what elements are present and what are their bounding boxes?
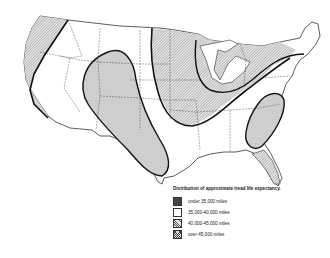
legend-label: over 45,000 miles [188, 232, 224, 238]
crosshatch-pattern-swatch-icon [173, 230, 182, 239]
legend-label: 40,000-45,000 miles [188, 221, 230, 227]
dots-pattern-swatch-icon [173, 197, 182, 206]
legend-item-under-35000: under 35,000 miles [173, 197, 283, 207]
tread-life-map: Distribution of approximate tread life e… [0, 0, 330, 258]
legend-item-over-45000: over 45,000 miles [173, 230, 283, 240]
legend-item-40000-45000: 40,000-45,000 miles [173, 219, 283, 229]
map-legend: Distribution of approximate tread life e… [173, 186, 283, 241]
legend-label: under 35,000 miles [188, 199, 227, 205]
blank-pattern-swatch-icon [173, 208, 182, 217]
legend-item-35000-40000: 35,000-40,000 miles [173, 208, 283, 218]
hatch-pattern-swatch-icon [173, 219, 182, 228]
legend-label: 35,000-40,000 miles [188, 210, 230, 216]
legend-title: Distribution of approximate tread life e… [173, 186, 283, 192]
